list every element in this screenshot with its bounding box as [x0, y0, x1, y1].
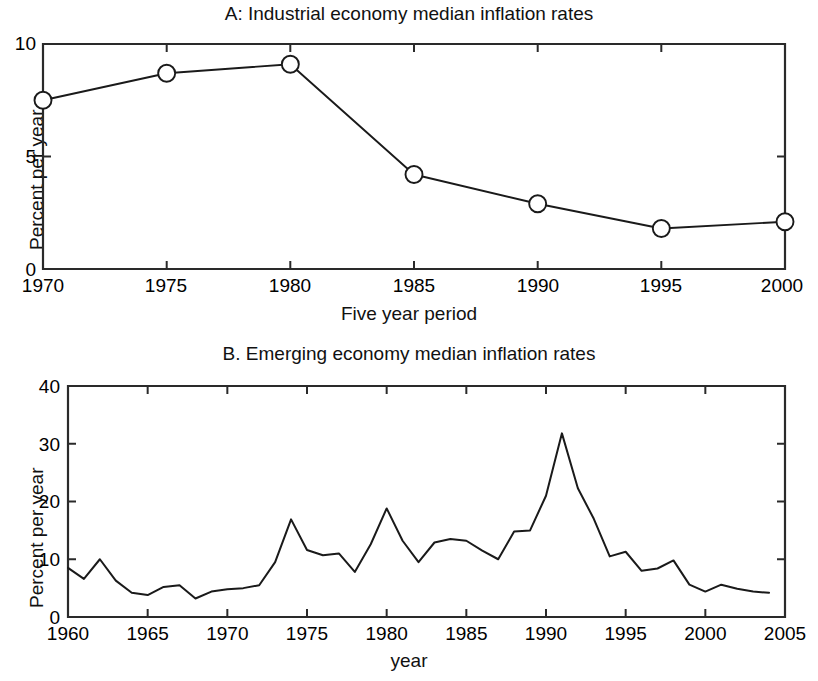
panel-a-industrial-economy: A: Industrial economy median inflation r…	[0, 0, 818, 340]
panel-a-series-markers	[35, 56, 794, 237]
panel-b-emerging-economy: B. Emerging economy median inflation rat…	[0, 340, 818, 681]
panel-b-xtick-1970: 1970	[193, 623, 261, 645]
panel-b-x-axis-label: year	[0, 650, 818, 672]
data-point-marker	[653, 220, 670, 237]
panel-b-series-line	[68, 433, 769, 598]
panel-a-plot	[0, 0, 818, 300]
panel-b-xtick-1975: 1975	[273, 623, 341, 645]
panel-a-axis-frame	[43, 44, 785, 269]
panel-a-xtick-1975: 1975	[132, 275, 200, 297]
inflation-rates-figure: A: Industrial economy median inflation r…	[0, 0, 818, 681]
panel-b-ytick-20: 20	[10, 491, 60, 513]
panel-a-ytick-5: 5	[8, 146, 36, 168]
data-point-marker	[35, 92, 52, 109]
data-point-marker	[529, 195, 546, 212]
panel-b-xtick-1960: 1960	[34, 623, 102, 645]
panel-b-xtick-1965: 1965	[114, 623, 182, 645]
panel-b-ytick-30: 30	[10, 434, 60, 456]
panel-b-y-ticks	[68, 386, 785, 617]
panel-b-axis-frame	[68, 386, 785, 617]
panel-a-ytick-10: 10	[0, 33, 36, 55]
panel-b-x-ticks	[68, 386, 785, 617]
panel-b-ytick-10: 10	[10, 549, 60, 571]
panel-a-x-axis-label: Five year period	[0, 303, 818, 325]
panel-b-xtick-1990: 1990	[512, 623, 580, 645]
data-point-marker	[406, 166, 423, 183]
panel-b-xtick-1980: 1980	[353, 623, 421, 645]
panel-a-xtick-1970: 1970	[9, 275, 77, 297]
panel-a-xtick-1980: 1980	[256, 275, 324, 297]
panel-a-xtick-1995: 1995	[627, 275, 695, 297]
panel-b-xtick-2000: 2000	[671, 623, 739, 645]
panel-b-xtick-1985: 1985	[432, 623, 500, 645]
panel-a-xtick-1985: 1985	[380, 275, 448, 297]
panel-a-y-ticks	[43, 44, 785, 269]
data-point-marker	[282, 56, 299, 73]
panel-b-ytick-40: 40	[10, 376, 60, 398]
panel-b-xtick-1995: 1995	[592, 623, 660, 645]
panel-a-series-line	[43, 64, 785, 228]
panel-b-xtick-2005: 2005	[751, 623, 818, 645]
panel-a-x-ticks	[43, 44, 785, 269]
data-point-marker	[777, 213, 794, 230]
panel-a-xtick-1990: 1990	[504, 275, 572, 297]
data-point-marker	[158, 65, 175, 82]
panel-b-plot	[0, 340, 818, 640]
panel-a-xtick-2000: 2000	[748, 275, 816, 297]
